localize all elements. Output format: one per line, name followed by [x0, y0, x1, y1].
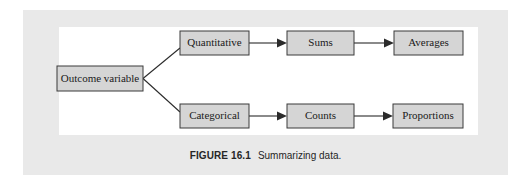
figure-caption: FIGURE 16.1Summarizing data. [23, 150, 508, 161]
node-proportions[interactable]: Proportions [393, 104, 463, 128]
node-averages[interactable]: Averages [394, 31, 463, 55]
node-sums[interactable]: Sums [287, 31, 354, 55]
arrowhead-quantitative-to-sums [277, 39, 287, 48]
figure-page: Outcome variable Quantitative Sums Avera… [0, 0, 527, 189]
node-label-quantitative: Quantitative [187, 36, 241, 48]
node-label-proportions: Proportions [402, 109, 453, 121]
arrowhead-counts-to-proportions [383, 112, 393, 121]
node-counts[interactable]: Counts [287, 104, 354, 128]
arrowhead-sums-to-averages [384, 39, 394, 48]
edge-outcome-to-quantitative [143, 48, 180, 79]
arrowhead-categorical-to-counts [277, 112, 287, 121]
figure-caption-text: Summarizing data. [258, 150, 341, 161]
node-quantitative[interactable]: Quantitative [180, 31, 249, 55]
node-label-sums: Sums [308, 36, 332, 48]
node-label-outcome-variable: Outcome variable [61, 72, 140, 84]
node-categorical[interactable]: Categorical [180, 104, 249, 128]
edge-outcome-to-categorical [143, 79, 180, 113]
figure-caption-label: FIGURE 16.1 [190, 150, 251, 161]
node-outcome-variable[interactable]: Outcome variable [57, 66, 143, 91]
node-label-averages: Averages [408, 36, 449, 48]
node-label-counts: Counts [305, 109, 336, 121]
node-label-categorical: Categorical [189, 109, 240, 121]
